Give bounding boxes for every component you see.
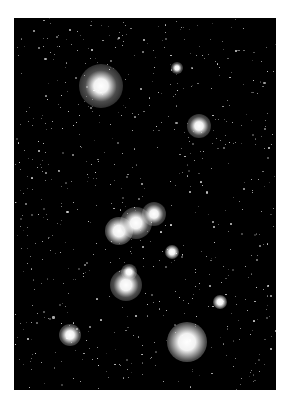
faint-star xyxy=(140,178,141,179)
faint-star xyxy=(206,256,207,257)
faint-star xyxy=(183,300,184,301)
faint-star xyxy=(30,256,31,257)
faint-star xyxy=(31,177,32,178)
faint-star xyxy=(145,293,146,294)
faint-star xyxy=(57,223,58,224)
faint-star xyxy=(221,282,222,283)
faint-star xyxy=(98,365,99,366)
faint-star xyxy=(246,114,247,115)
faint-star xyxy=(41,167,42,168)
faint-star xyxy=(209,274,210,275)
faint-star xyxy=(89,348,90,349)
faint-star xyxy=(213,130,214,131)
faint-star xyxy=(85,272,86,273)
faint-star xyxy=(87,181,88,182)
faint-star xyxy=(174,129,175,130)
faint-star xyxy=(264,128,266,130)
faint-star xyxy=(182,255,183,256)
faint-star xyxy=(20,190,21,191)
star-saiph xyxy=(59,324,81,346)
faint-star xyxy=(27,263,28,264)
faint-star xyxy=(275,44,276,45)
faint-star xyxy=(165,32,166,33)
faint-star xyxy=(47,219,48,220)
faint-star xyxy=(268,147,270,149)
faint-star xyxy=(138,114,139,115)
faint-star xyxy=(267,295,269,297)
faint-star xyxy=(140,240,141,241)
faint-star xyxy=(20,226,21,227)
faint-star xyxy=(138,198,140,200)
faint-star xyxy=(202,55,203,56)
faint-star xyxy=(125,107,126,108)
faint-star xyxy=(227,100,228,101)
faint-star xyxy=(253,80,254,81)
faint-star xyxy=(210,39,211,40)
faint-star xyxy=(175,122,177,124)
faint-star xyxy=(21,38,22,39)
faint-star xyxy=(60,224,61,225)
faint-star xyxy=(197,83,198,84)
faint-star xyxy=(155,351,157,353)
faint-star xyxy=(90,58,91,59)
faint-star xyxy=(180,29,181,30)
faint-star xyxy=(23,193,24,194)
faint-star xyxy=(184,156,186,158)
faint-star xyxy=(41,362,42,363)
faint-star xyxy=(123,377,125,379)
faint-star xyxy=(45,123,46,124)
faint-star xyxy=(245,266,246,267)
faint-star xyxy=(192,85,193,86)
faint-star xyxy=(228,275,229,276)
faint-star xyxy=(252,330,253,331)
faint-star xyxy=(34,289,35,290)
faint-star xyxy=(239,201,240,202)
faint-star xyxy=(63,283,64,284)
faint-star xyxy=(109,296,110,297)
faint-star xyxy=(225,144,226,145)
faint-star xyxy=(19,359,20,360)
faint-star xyxy=(32,189,33,190)
faint-star xyxy=(66,39,67,40)
faint-star xyxy=(119,258,120,259)
faint-star xyxy=(37,167,38,168)
faint-star xyxy=(267,113,268,114)
star-iota-orionis xyxy=(121,264,137,280)
faint-star xyxy=(33,30,35,32)
faint-star xyxy=(22,215,23,216)
faint-star xyxy=(157,147,158,148)
faint-star xyxy=(31,369,32,370)
faint-star xyxy=(152,81,153,82)
faint-star xyxy=(52,316,54,318)
faint-star xyxy=(88,106,89,107)
faint-star xyxy=(171,205,172,206)
faint-star xyxy=(38,47,40,49)
faint-star xyxy=(81,147,82,148)
faint-star xyxy=(178,381,180,383)
faint-star xyxy=(86,161,87,162)
faint-star xyxy=(197,25,198,26)
faint-star xyxy=(220,140,221,141)
faint-star xyxy=(225,135,226,136)
faint-star xyxy=(185,279,186,280)
faint-star xyxy=(115,47,116,48)
faint-star xyxy=(98,161,99,162)
faint-star xyxy=(175,291,176,292)
star-meissa xyxy=(171,62,183,74)
faint-star xyxy=(192,68,193,69)
faint-star xyxy=(114,180,115,181)
faint-star xyxy=(264,186,265,187)
faint-star xyxy=(99,122,100,123)
faint-star xyxy=(183,245,184,246)
faint-star xyxy=(85,63,86,64)
faint-star xyxy=(247,310,248,311)
faint-star xyxy=(43,217,44,218)
faint-star xyxy=(229,142,230,143)
faint-star xyxy=(153,50,154,51)
faint-star xyxy=(273,208,274,209)
faint-star xyxy=(244,182,245,183)
faint-star xyxy=(76,122,77,123)
faint-star xyxy=(230,249,231,250)
faint-star xyxy=(27,338,28,339)
faint-star xyxy=(267,305,268,306)
